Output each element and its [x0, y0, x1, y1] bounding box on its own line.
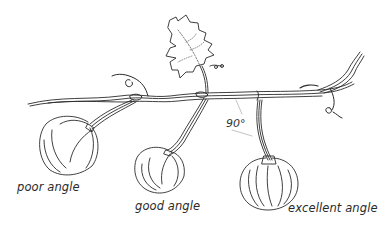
pumpkin-good: [135, 147, 185, 193]
leaf: [166, 15, 224, 93]
stem-good: [168, 98, 208, 154]
stem-excellent: [257, 100, 272, 160]
label-excellent-angle: excellent angle: [288, 201, 378, 215]
angle-label-90: 90°: [226, 117, 246, 130]
stem-poor: [90, 100, 136, 128]
node-3: [257, 91, 259, 100]
tendril-left: [112, 74, 148, 96]
label-poor-angle: poor angle: [17, 180, 80, 194]
label-good-angle: good angle: [135, 199, 200, 213]
node-4: [300, 85, 318, 88]
pumpkin-stem-angle-illustration: 90° poor angle good angle excellent angl…: [0, 0, 384, 227]
pumpkin-poor: [40, 116, 98, 175]
vine-end: [318, 52, 364, 93]
